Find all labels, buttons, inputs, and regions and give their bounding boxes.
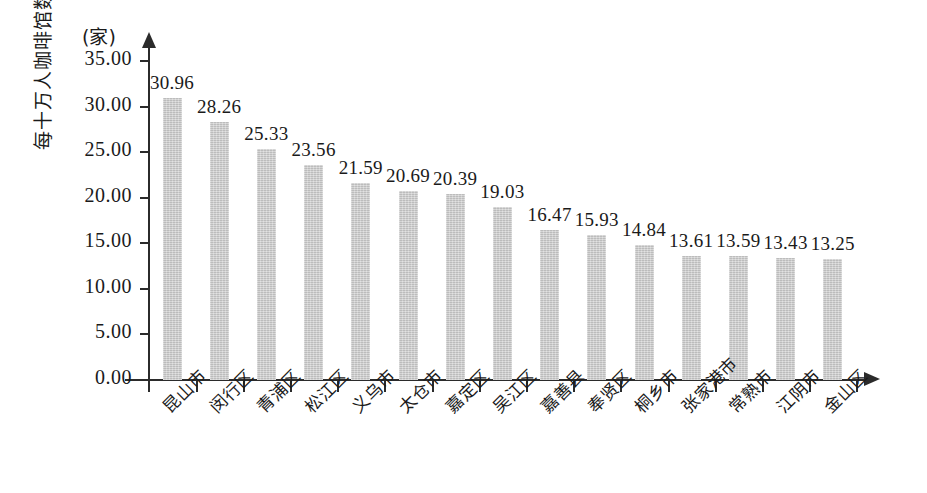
- y-axis-tick-mark: [140, 60, 150, 62]
- bar: [351, 183, 370, 380]
- y-axis-tick-label: 15.00: [46, 229, 132, 252]
- bar: [776, 258, 795, 380]
- y-axis-tick-mark: [140, 106, 150, 108]
- bar: [635, 245, 654, 380]
- bar-value-label: 19.03: [472, 181, 532, 203]
- bar-value-label: 28.26: [189, 96, 249, 118]
- y-axis-arrow-icon: [142, 32, 156, 48]
- x-axis-tick-mark: [148, 381, 150, 392]
- y-axis-tick-mark: [140, 333, 150, 335]
- y-axis-line: [148, 46, 150, 380]
- y-axis-tick-label: 35.00: [46, 47, 132, 70]
- bar: [587, 235, 606, 380]
- bar: [399, 191, 418, 380]
- y-axis-tick-mark: [140, 242, 150, 244]
- bar-chart: (家) 每十万人咖啡馆数 35.0030.0025.0020.0015.0010…: [0, 0, 927, 493]
- bar: [304, 165, 323, 380]
- y-axis-tick-mark: [140, 288, 150, 290]
- y-axis-tick-label: 10.00: [46, 275, 132, 298]
- y-axis-tick-mark: [140, 197, 150, 199]
- bar: [210, 122, 229, 380]
- bar: [493, 207, 512, 380]
- y-axis-tick-label: 30.00: [46, 93, 132, 116]
- bar: [163, 98, 182, 380]
- bar-value-label: 13.25: [803, 233, 863, 255]
- y-axis-title: 每十万人咖啡馆数: [28, 0, 55, 150]
- y-axis-unit-label: (家): [82, 22, 116, 49]
- bar: [540, 230, 559, 380]
- bar: [823, 259, 842, 380]
- y-axis-tick-mark: [140, 151, 150, 153]
- y-axis-tick-label: 5.00: [46, 320, 132, 343]
- y-axis-tick-label: 20.00: [46, 184, 132, 207]
- bar: [446, 194, 465, 380]
- bar: [257, 149, 276, 380]
- bar: [682, 256, 701, 380]
- y-axis-tick-label: 25.00: [46, 138, 132, 161]
- bar-value-label: 30.96: [142, 72, 202, 94]
- y-axis-tick-label: 0.00: [46, 366, 132, 389]
